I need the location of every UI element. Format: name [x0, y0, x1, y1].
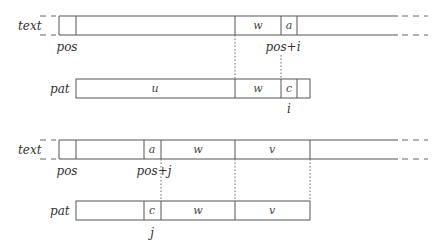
pos-label: pos	[56, 164, 77, 178]
string-matching-diagram: text w a pos pos+i pat u w c i text a w …	[0, 0, 438, 252]
text-cell-v: v	[269, 143, 276, 156]
pat-cell-w: w	[253, 82, 263, 95]
text-row-label: text	[18, 19, 42, 33]
top-pat-row	[76, 79, 310, 98]
text-cell-a: a	[149, 143, 156, 156]
pos-plus-i-label: pos+i	[266, 40, 301, 54]
pat-row-label: pat	[50, 82, 70, 96]
text-cell-w: w	[253, 19, 263, 32]
j-label: j	[147, 226, 154, 240]
pat-cell-c: c	[286, 82, 292, 95]
text-cell-w: w	[193, 143, 203, 156]
bottom-text-row	[40, 140, 428, 159]
pat-cell-c: c	[149, 204, 155, 217]
pat-row-label: pat	[50, 204, 70, 218]
text-cell-a: a	[286, 19, 293, 32]
pat-cell-w: w	[193, 204, 203, 217]
pat-cell-v: v	[269, 204, 276, 217]
pat-cell-u: u	[151, 82, 158, 95]
top-text-row	[40, 16, 428, 35]
pos-plus-j-label: pos+j	[137, 164, 172, 178]
pos-label: pos	[56, 40, 77, 54]
i-label: i	[287, 102, 291, 116]
text-row-label: text	[18, 143, 42, 157]
